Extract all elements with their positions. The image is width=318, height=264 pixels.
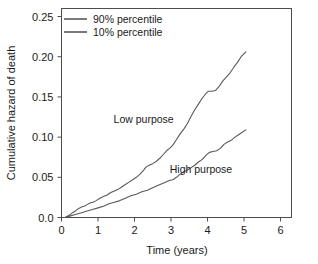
legend-label-90pct: 90% percentile	[93, 13, 163, 25]
y-tick-label: 0.20	[32, 51, 53, 63]
y-tick-label: 0.15	[32, 91, 53, 103]
y-axis-title: Cumulative hazard of death	[5, 46, 17, 181]
chart-canvas: 0123456 0.00.050.100.150.200.25 90% perc…	[0, 0, 318, 264]
chart-legend: 90% percentile 10% percentile	[64, 13, 163, 38]
x-tick-label: 3	[168, 224, 174, 236]
series-path-90pct	[65, 52, 246, 218]
x-tick-label: 6	[277, 224, 283, 236]
legend-label-10pct: 10% percentile	[93, 26, 163, 38]
x-axis-title: Time (years)	[146, 244, 207, 256]
x-tick-label: 0	[58, 224, 64, 236]
annotation-low-purpose: Low purpose	[114, 113, 174, 125]
x-tick-label: 2	[131, 224, 137, 236]
y-tick-label: 0.0	[38, 212, 53, 224]
x-axis-ticks: 0123456	[58, 218, 283, 236]
y-tick-label: 0.25	[32, 11, 53, 23]
x-tick-label: 4	[204, 224, 210, 236]
series-lines	[65, 52, 246, 218]
y-tick-label: 0.05	[32, 171, 53, 183]
x-tick-label: 1	[95, 224, 101, 236]
chart-figure: 0123456 0.00.050.100.150.200.25 90% perc…	[0, 0, 318, 264]
y-tick-label: 0.10	[32, 131, 53, 143]
x-tick-label: 5	[241, 224, 247, 236]
y-axis-ticks: 0.00.050.100.150.200.25	[32, 11, 61, 224]
plot-frame	[62, 9, 292, 218]
annotation-high-purpose: High purpose	[170, 163, 233, 175]
